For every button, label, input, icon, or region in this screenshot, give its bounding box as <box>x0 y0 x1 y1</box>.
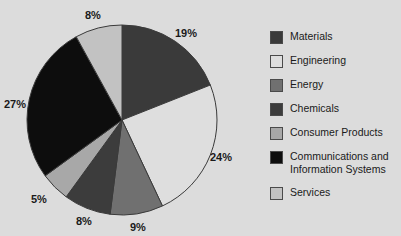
pie-value-label: 27% <box>4 99 26 110</box>
legend-label-materials: Materials <box>290 30 333 43</box>
pie-value-label: 8% <box>85 10 101 21</box>
pie-value-label: 9% <box>130 222 146 233</box>
legend-swatch-services <box>270 187 283 200</box>
legend-item-energy[interactable]: Energy <box>270 78 401 92</box>
legend-swatch-chemicals <box>270 103 283 116</box>
pie-value-label: 5% <box>31 194 47 205</box>
pie-chart-figure: 19%24%9%8%5%27%8% Materials Engineering … <box>0 0 401 236</box>
legend-item-consumer-products[interactable]: Consumer Products <box>270 126 401 140</box>
pie-value-label: 24% <box>210 152 232 163</box>
pie-plot-area: 19%24%9%8%5%27%8% <box>0 0 250 236</box>
legend-label-services: Services <box>290 186 330 199</box>
legend-swatch-energy <box>270 79 283 92</box>
legend-swatch-consumer-products <box>270 127 283 140</box>
legend-item-materials[interactable]: Materials <box>270 30 401 44</box>
pie-value-label: 8% <box>76 216 92 227</box>
legend-label-consumer-products: Consumer Products <box>290 126 383 139</box>
legend-label-communications: Communications and Information Systems <box>290 150 389 176</box>
legend-swatch-materials <box>270 31 283 44</box>
legend-item-communications[interactable]: Communications and Information Systems <box>270 150 401 176</box>
legend-label-chemicals: Chemicals <box>290 102 339 115</box>
legend-label-energy: Energy <box>290 78 323 91</box>
chart-legend: Materials Engineering Energy Chemicals C… <box>270 30 401 210</box>
legend-swatch-engineering <box>270 55 283 68</box>
pie-value-label: 19% <box>175 28 197 39</box>
pie-slice-group <box>27 25 217 215</box>
legend-label-engineering: Engineering <box>290 54 346 67</box>
legend-swatch-communications <box>270 151 283 164</box>
legend-item-chemicals[interactable]: Chemicals <box>270 102 401 116</box>
legend-item-engineering[interactable]: Engineering <box>270 54 401 68</box>
legend-item-services[interactable]: Services <box>270 186 401 200</box>
